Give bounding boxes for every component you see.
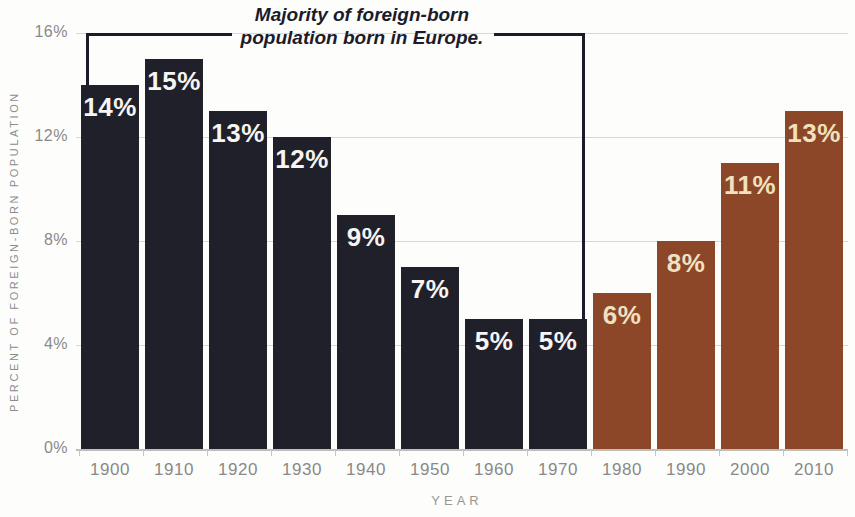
x-tick-label-1980: 1980 — [590, 460, 654, 480]
bar-1990: 8% — [657, 241, 715, 449]
bar-value-label-1970: 5% — [539, 326, 578, 357]
x-axis-tick — [399, 449, 400, 456]
x-axis-tick — [783, 449, 784, 456]
bar-value-label-2010: 13% — [787, 118, 841, 149]
x-axis-tick — [271, 449, 272, 456]
bar-value-label-1980: 6% — [603, 300, 642, 331]
bar-1930: 12% — [273, 137, 331, 449]
x-tick-label-1960: 1960 — [462, 460, 526, 480]
x-axis-tick — [79, 449, 80, 456]
x-tick-label-1970: 1970 — [526, 460, 590, 480]
bracket-left-vertical — [86, 33, 89, 85]
bar-1960: 5% — [465, 319, 523, 449]
x-axis-tick — [143, 449, 144, 456]
x-tick-label-2000: 2000 — [718, 460, 782, 480]
x-tick-label-1920: 1920 — [206, 460, 270, 480]
x-tick-label-1910: 1910 — [142, 460, 206, 480]
x-axis-tick — [655, 449, 656, 456]
bar-1980: 6% — [593, 293, 651, 449]
bar-1920: 13% — [209, 111, 267, 449]
y-tick-label-0%: 0% — [16, 439, 68, 457]
x-axis-tick — [463, 449, 464, 456]
bar-1970: 5% — [529, 319, 587, 449]
bracket-right-vertical — [582, 33, 585, 319]
bar-1940: 9% — [337, 215, 395, 449]
y-tick-label-12%: 12% — [16, 127, 68, 145]
x-axis-tick — [847, 449, 848, 456]
x-tick-label-1900: 1900 — [78, 460, 142, 480]
annotation: Majority of foreign-born population born… — [228, 3, 496, 49]
x-tick-label-1940: 1940 — [334, 460, 398, 480]
bar-2010: 13% — [785, 111, 843, 449]
bar-value-label-1950: 7% — [411, 274, 450, 305]
x-tick-label-1990: 1990 — [654, 460, 718, 480]
bracket-right-horizontal — [494, 33, 585, 36]
x-axis-tick — [527, 449, 528, 456]
x-tick-label-2010: 2010 — [782, 460, 846, 480]
bar-value-label-1900: 14% — [83, 92, 137, 123]
annotation-line-1: Majority of foreign-born — [228, 3, 496, 26]
bar-2000: 11% — [721, 163, 779, 449]
bar-value-label-1960: 5% — [475, 326, 514, 357]
y-tick-label-8%: 8% — [16, 231, 68, 249]
bar-1900: 14% — [81, 85, 139, 449]
bar-1950: 7% — [401, 267, 459, 449]
bar-value-label-1910: 15% — [147, 66, 201, 97]
bar-value-label-1940: 9% — [347, 222, 386, 253]
bar-1910: 15% — [145, 59, 203, 449]
x-tick-label-1930: 1930 — [270, 460, 334, 480]
x-axis-title: YEAR — [377, 493, 537, 508]
x-axis-tick — [591, 449, 592, 456]
bar-value-label-2000: 11% — [724, 170, 776, 201]
x-axis-line — [76, 449, 848, 451]
annotation-line-2: population born in Europe. — [228, 26, 496, 49]
bar-value-label-1930: 12% — [275, 144, 329, 175]
x-tick-label-1950: 1950 — [398, 460, 462, 480]
x-axis-tick — [335, 449, 336, 456]
foreign-born-population-bar-chart: PERCENT OF FOREIGN-BORN POPULATION 16%12… — [0, 0, 855, 517]
bracket-left-horizontal — [86, 33, 232, 36]
y-tick-label-16%: 16% — [16, 23, 68, 41]
bar-value-label-1990: 8% — [667, 248, 706, 279]
bar-value-label-1920: 13% — [211, 118, 265, 149]
y-tick-label-4%: 4% — [16, 335, 68, 353]
x-axis-tick — [719, 449, 720, 456]
x-axis-tick — [207, 449, 208, 456]
